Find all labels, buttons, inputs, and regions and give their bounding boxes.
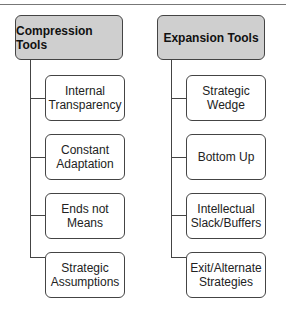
node-strategic-wedge: Strategic Wedge [186, 75, 266, 121]
top-divider [0, 4, 286, 5]
right-connector-trunk [171, 60, 172, 258]
node-constant-adaptation: Constant Adaptation [45, 134, 125, 180]
node-strategic-assumptions: Strategic Assumptions [45, 252, 125, 298]
node-exit-alternate-strategies: Exit/Alternate Strategies [186, 252, 266, 298]
connector [30, 215, 45, 216]
compression-tools-header: Compression Tools [15, 15, 123, 60]
expansion-tools-header: Expansion Tools [157, 15, 265, 60]
node-bottom-up: Bottom Up [186, 134, 266, 180]
connector [171, 257, 186, 258]
connector [171, 157, 186, 158]
node-internal-transparency: Internal Transparency [45, 75, 125, 121]
connector [30, 98, 45, 99]
connector [171, 98, 186, 99]
node-ends-not-means: Ends not Means [45, 193, 125, 239]
connector [30, 257, 45, 258]
node-intellectual-slack-buffers: Intellectual Slack/Buffers [186, 193, 266, 239]
connector [30, 157, 45, 158]
left-connector-trunk [30, 60, 31, 258]
connector [171, 215, 186, 216]
